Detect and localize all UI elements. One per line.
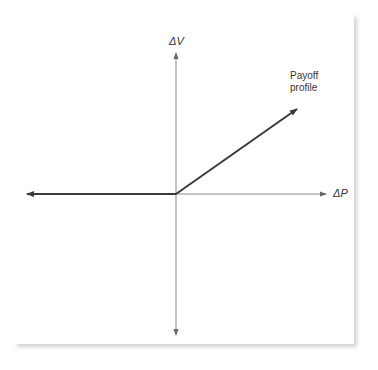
payoff-label-line1: Payoff bbox=[290, 70, 318, 81]
payoff-label-line2: profile bbox=[290, 82, 317, 93]
payoff-diagram bbox=[0, 0, 378, 370]
payoff-rising-segment bbox=[176, 109, 297, 194]
x-axis-label: ΔP bbox=[333, 188, 348, 199]
y-axis-label: ΔV bbox=[169, 36, 184, 47]
